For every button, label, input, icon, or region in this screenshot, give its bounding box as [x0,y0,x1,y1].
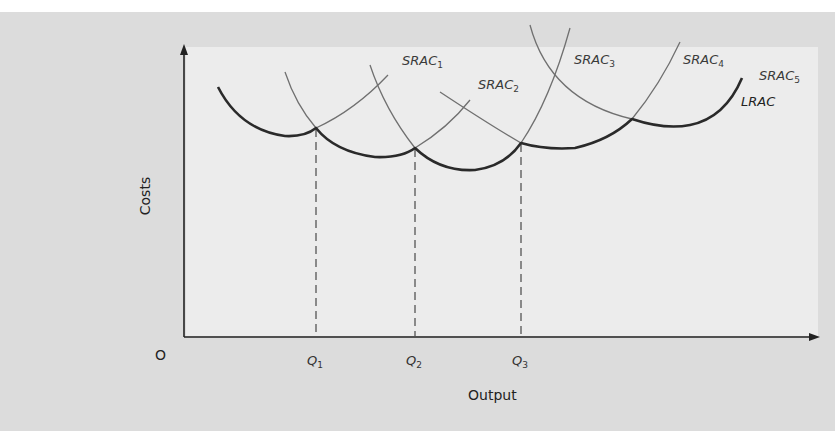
srac3-curve [370,28,570,148]
srac4-label: SRAC4 [683,52,724,69]
q1-label-base: Q [307,353,317,368]
srac5-label-sub: 5 [794,75,800,85]
srac3-label: SRAC3 [574,52,615,69]
y-axis-arrow-icon [180,44,188,55]
srac5-label: SRAC5 [759,68,800,85]
x-axis-title: Output [468,387,517,403]
srac3-label-base: SRAC [574,52,609,67]
q2-label-sub: 2 [416,360,422,370]
q1-label: Q1 [307,353,323,370]
srac4-label-base: SRAC [683,52,718,67]
q1-label-sub: 1 [317,360,323,370]
q3-label-sub: 3 [522,360,528,370]
lrac-label: LRAC [741,94,775,109]
q2-label: Q2 [406,353,422,370]
srac4-label-sub: 4 [718,59,724,69]
srac5-curve [530,25,632,119]
srac2-label-sub: 2 [513,84,519,94]
srac2-label-base: SRAC [478,77,513,92]
q2-label-base: Q [406,353,416,368]
srac1-label: SRAC1 [402,53,443,70]
srac5-label-base: SRAC [759,68,794,83]
srac2-label: SRAC2 [478,77,519,94]
srac3-label-sub: 3 [609,59,615,69]
origin-label: O [155,347,166,363]
quantity-guides [316,129,521,336]
srac1-label-base: SRAC [402,53,437,68]
q3-label: Q3 [512,353,528,370]
srac1-label-sub: 1 [437,60,443,70]
axes [184,52,812,337]
x-axis-arrow-icon [809,333,820,341]
y-axis-title: Costs [137,171,153,221]
q3-label-base: Q [512,353,522,368]
srac4-curve [440,42,680,143]
